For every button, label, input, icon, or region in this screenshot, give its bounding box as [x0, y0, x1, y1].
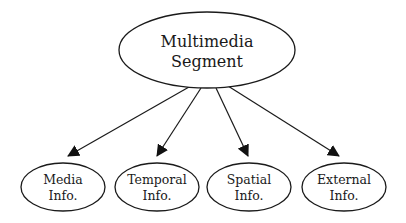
diagram-canvas: Multimedia Segment Media Info. Temporal …	[0, 0, 406, 223]
edges	[68, 86, 339, 156]
spatial-info-label-line-1: Spatial	[227, 172, 272, 187]
temporal-info-label-line-1: Temporal	[127, 172, 187, 187]
edge-media-info	[68, 87, 189, 156]
root-label-line-2: Segment	[171, 52, 244, 71]
node-multimedia-segment: Multimedia Segment	[119, 12, 295, 88]
root-label-line-1: Multimedia	[161, 32, 254, 51]
node-external-info: External Info.	[302, 163, 386, 211]
temporal-info-ellipse	[115, 163, 199, 211]
temporal-info-label-line-2: Info.	[143, 188, 172, 203]
spatial-info-label-line-2: Info.	[235, 188, 264, 203]
external-info-label-line-2: Info.	[330, 188, 359, 203]
edge-spatial-info	[216, 88, 248, 156]
edge-temporal-info	[157, 88, 201, 156]
node-temporal-info: Temporal Info.	[115, 163, 199, 211]
external-info-label-line-1: External	[317, 172, 371, 187]
node-media-info: Media Info.	[21, 163, 105, 211]
edge-external-info	[228, 86, 339, 156]
node-spatial-info: Spatial Info.	[207, 163, 291, 211]
media-info-ellipse	[21, 163, 105, 211]
media-info-label-line-1: Media	[43, 172, 83, 187]
external-info-ellipse	[302, 163, 386, 211]
media-info-label-line-2: Info.	[49, 188, 78, 203]
spatial-info-ellipse	[207, 163, 291, 211]
